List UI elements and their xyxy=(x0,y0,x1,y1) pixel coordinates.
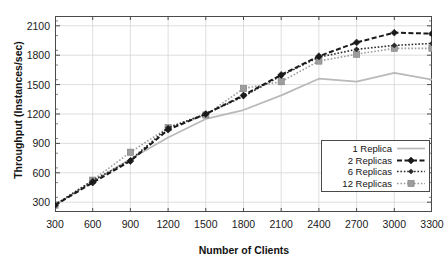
data-point-marker xyxy=(278,79,284,85)
y-tick-label: 1200 xyxy=(6,108,50,120)
data-point-marker xyxy=(429,30,432,37)
y-tick-label: 300 xyxy=(6,196,50,208)
legend-swatch xyxy=(396,155,426,166)
legend-label: 1 Replica xyxy=(325,143,396,154)
legend: 1 Replica2 Replicas6 Replicas12 Replicas xyxy=(321,140,430,192)
legend-swatch xyxy=(396,178,426,189)
legend-label: 2 Replicas xyxy=(325,155,396,166)
y-tick-label: 900 xyxy=(6,137,50,149)
x-axis-title: Number of Clients xyxy=(55,244,433,256)
x-tick-label: 3300 xyxy=(409,218,448,230)
legend-label: 12 Replicas xyxy=(325,178,396,189)
data-point-marker xyxy=(240,85,246,91)
y-tick-label: 1800 xyxy=(6,49,50,61)
data-point-marker xyxy=(408,180,414,186)
y-tick-label: 2100 xyxy=(6,20,50,32)
data-point-marker xyxy=(408,157,415,164)
data-point-marker xyxy=(429,45,432,51)
legend-item-12-replicas[interactable]: 12 Replicas xyxy=(322,178,429,190)
legend-label: 6 Replicas xyxy=(325,166,396,177)
x-axis-tick-labels: 3006009001200150018002100240027003000330… xyxy=(0,218,442,238)
y-tick-label: 600 xyxy=(6,167,50,179)
data-point-marker xyxy=(353,39,360,46)
legend-swatch xyxy=(396,143,426,154)
y-tick-label: 1500 xyxy=(6,79,50,91)
legend-swatch xyxy=(396,166,426,177)
legend-item-1-replica[interactable]: 1 Replica xyxy=(322,143,429,155)
data-point-marker xyxy=(408,169,413,174)
legend-item-2-replicas[interactable]: 2 Replicas xyxy=(322,155,429,167)
data-point-marker xyxy=(391,29,398,36)
legend-item-6-replicas[interactable]: 6 Replicas xyxy=(322,166,429,178)
data-point-marker xyxy=(127,149,133,155)
